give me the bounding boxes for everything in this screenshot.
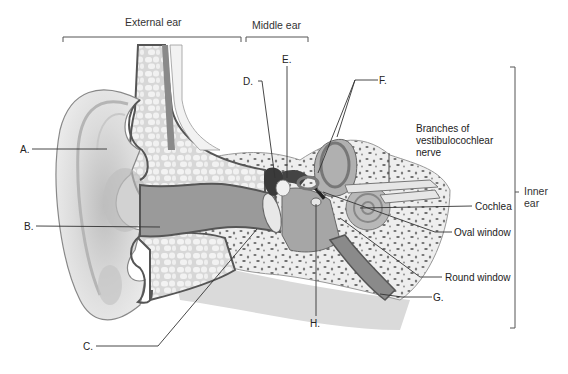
label-C: C.: [83, 341, 93, 352]
label-cochlea: Cochlea: [475, 201, 512, 212]
inner-ear-bracket: [510, 67, 515, 328]
ossicle-joint: [276, 180, 290, 196]
label-oval-window: Oval window: [454, 227, 511, 238]
label-nerve-line3: nerve: [416, 147, 441, 158]
ear-anatomy-diagram: External ear Middle ear Inner ear A. B. …: [0, 0, 568, 374]
subcutaneous-tissue: [130, 45, 265, 195]
external-auditory-canal: [140, 184, 280, 237]
label-B: B.: [24, 221, 33, 232]
label-G: G.: [433, 292, 444, 303]
label-E: E.: [282, 54, 291, 65]
region-label-external-ear: External ear: [125, 17, 182, 28]
earlobe-shadow: [98, 265, 122, 305]
region-label-middle-ear: Middle ear: [252, 20, 301, 31]
label-H: H.: [310, 318, 320, 329]
label-nerve-line1: Branches of: [416, 123, 469, 134]
region-label-inner-ear-line1: Inner: [524, 186, 548, 197]
middle-ear-bracket: [246, 37, 308, 42]
label-D: D.: [243, 76, 253, 87]
label-nerve-line2: vestibulocochlear: [416, 135, 493, 146]
external-ear-bracket: [63, 37, 241, 42]
label-F: F.: [379, 75, 387, 86]
region-label-inner-ear-line2: ear: [524, 198, 539, 209]
label-A: A.: [20, 144, 29, 155]
label-round-window: Round window: [445, 272, 511, 283]
